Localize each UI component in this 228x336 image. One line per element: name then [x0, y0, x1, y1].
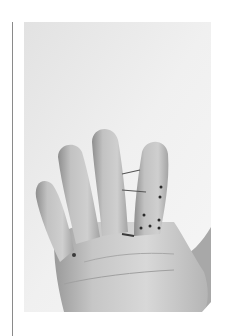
palm-mark [72, 253, 76, 257]
hand-illustration [24, 22, 211, 312]
hand-photograph [24, 22, 211, 312]
margin-rule [12, 22, 13, 336]
